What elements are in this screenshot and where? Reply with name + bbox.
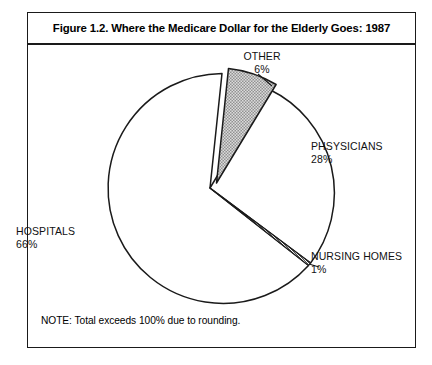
- pie-label-physicians-percent: 28%: [311, 153, 421, 166]
- pie-label-hospitals-name: HOSPITALS: [16, 225, 75, 237]
- figure-note: NOTE: Total exceeds 100% due to rounding…: [41, 315, 240, 326]
- pie-label-other-name: OTHER: [243, 50, 280, 62]
- pie-label-nursing-homes-name: NURSING HOMES: [311, 250, 402, 262]
- pie-label-physicians: PHSYSICIANS 28%: [311, 140, 421, 165]
- pie-label-other-percent: 6%: [222, 63, 302, 76]
- pie-label-nursing-homes: NURSING HOMES 1%: [311, 250, 429, 275]
- pie-chart: [0, 0, 432, 365]
- pie-label-hospitals-percent: 66%: [16, 238, 126, 251]
- pie-label-other: OTHER 6%: [222, 50, 302, 75]
- pie-label-physicians-name: PHSYSICIANS: [311, 140, 383, 152]
- pie-label-hospitals: HOSPITALS 66%: [16, 225, 126, 250]
- pie-label-nursing-homes-percent: 1%: [311, 263, 429, 276]
